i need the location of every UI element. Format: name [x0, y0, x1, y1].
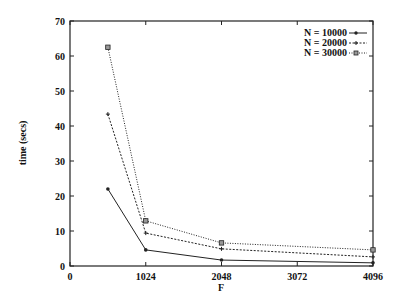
- legend: N = 10000 N = 20000 N = 30000: [304, 27, 367, 58]
- y-tick-label: 20: [55, 191, 65, 202]
- y-axis-label: time (secs): [17, 121, 29, 166]
- x-tick-label: 4096: [363, 271, 383, 282]
- data-point: [106, 112, 110, 116]
- x-axis-label: F: [218, 282, 224, 293]
- data-point: [144, 231, 148, 235]
- data-point: [144, 248, 148, 252]
- legend-swatch-n30000: [349, 51, 367, 55]
- data-point: [106, 45, 110, 49]
- data-point: [371, 261, 375, 265]
- x-tick-label: 3072: [287, 271, 307, 282]
- series-10000: [106, 187, 375, 264]
- series-30000: [106, 45, 376, 252]
- legend-swatch-n10000: [349, 31, 367, 34]
- data-point: [219, 241, 223, 245]
- y-tick-label: 10: [55, 226, 65, 237]
- legend-label-n30000: N = 30000: [304, 47, 347, 58]
- line-chart: 010203040506070 01024204830724096 F time…: [0, 0, 402, 303]
- x-tick-label: 0: [68, 271, 73, 282]
- y-tick-label: 40: [55, 121, 65, 132]
- data-point: [371, 248, 375, 252]
- y-tick-label: 30: [55, 156, 65, 167]
- data-point: [220, 258, 224, 262]
- y-tick-label: 0: [60, 261, 65, 272]
- y-tick-label: 50: [55, 86, 65, 97]
- series-20000: [106, 112, 375, 259]
- legend-swatch-n20000: [349, 41, 367, 45]
- x-tick-label: 2048: [212, 271, 232, 282]
- y-tick-label: 60: [55, 51, 65, 62]
- data-point: [220, 247, 224, 251]
- x-tick-label: 1024: [136, 271, 156, 282]
- y-tick-label: 70: [55, 16, 65, 27]
- data-point: [106, 187, 110, 191]
- series-lines: [106, 45, 376, 265]
- data-point: [144, 219, 148, 223]
- data-point: [371, 255, 375, 259]
